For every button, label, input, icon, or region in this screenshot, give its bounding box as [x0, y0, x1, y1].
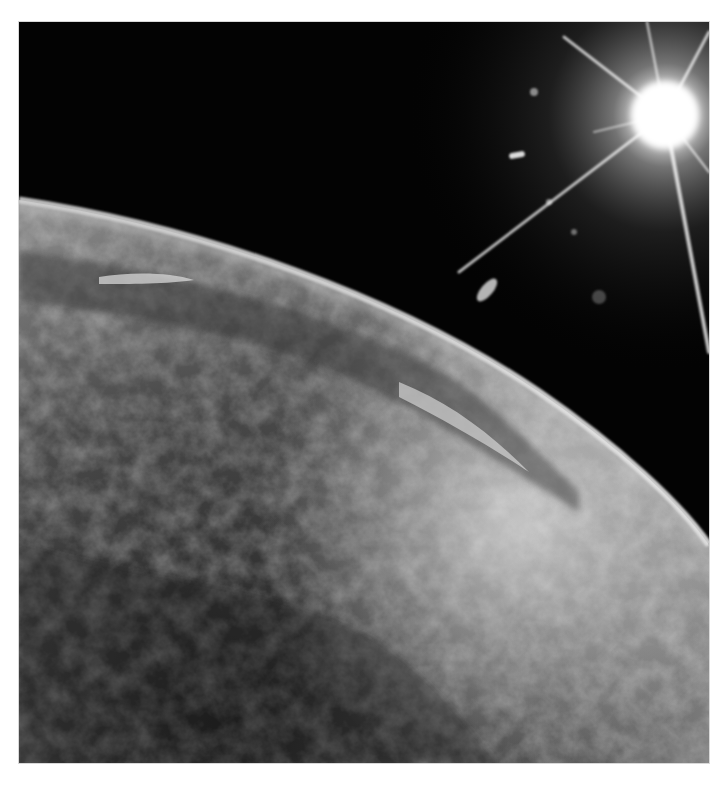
sun-center [645, 95, 685, 135]
earth-from-space-photo: Black and white photograph of Earth from… [19, 22, 709, 763]
earth-scene [19, 22, 709, 763]
